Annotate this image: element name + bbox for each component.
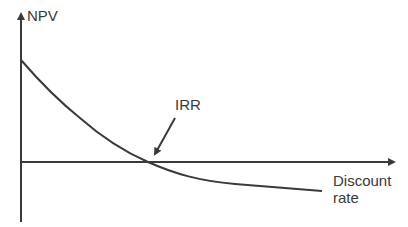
irr-pointer-arrow [155,118,175,154]
irr-annotation: IRR [175,96,201,113]
x-axis-label: Discount rate [333,172,391,206]
x-axis-label-line1: Discount [333,172,391,189]
x-axis-label-line2: rate [333,189,391,206]
y-axis-label: NPV [27,7,58,24]
